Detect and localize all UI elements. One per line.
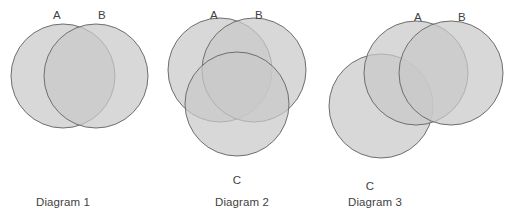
diagram-3-circle-b[interactable]: [399, 21, 503, 125]
diagram-1-circles: [11, 24, 148, 128]
diagram-3-label-b: B: [458, 11, 466, 23]
diagram-2-label-c: C: [233, 174, 242, 186]
venn-diagram-figure: A B Diagram 1 A B C Diagram 2 A B C Diag…: [0, 0, 517, 224]
diagram-3-label-c: C: [366, 180, 375, 192]
diagram-1-label-b: B: [98, 9, 106, 21]
diagram-3-label-a: A: [414, 11, 422, 23]
diagram-1-caption: Diagram 1: [36, 196, 90, 208]
diagram-2-label-a: A: [210, 9, 218, 21]
diagram-2-label-b: B: [255, 9, 263, 21]
diagram-2-circle-c[interactable]: [185, 52, 289, 156]
diagram-3-caption: Diagram 3: [348, 196, 402, 208]
diagram-2-caption: Diagram 2: [215, 196, 269, 208]
diagram-1-label-a: A: [53, 9, 61, 21]
diagram-1-circle-b[interactable]: [44, 24, 148, 128]
